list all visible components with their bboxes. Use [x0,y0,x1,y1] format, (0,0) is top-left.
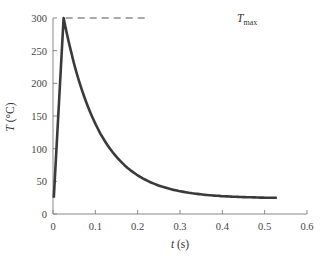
x-tick-label: 0.2 [131,221,144,232]
y-tick-label: 300 [31,13,47,24]
x-tick-label: 0.4 [216,221,230,232]
y-tick-label: 0 [42,209,47,220]
y-tick-label: 250 [31,46,47,57]
x-axis-label: t (s) [171,238,189,251]
ticks: 00.10.20.30.40.50.6050100150200250300 [31,13,313,232]
temperature-curve [54,18,277,198]
y-tick-label: 50 [37,176,48,187]
x-tick-label: 0.1 [89,221,102,232]
y-tick-label: 200 [31,78,47,89]
temperature-chart: 00.10.20.30.40.50.6050100150200250300 T … [0,0,322,257]
y-tick-label: 150 [31,111,47,122]
x-tick-label: 0 [50,221,55,232]
x-tick-label: 0.3 [173,221,186,232]
y-tick-label: 100 [31,144,47,155]
y-axis-label: T (°C) [4,102,17,131]
tmax-label: Tmax [237,12,257,27]
x-tick-label: 0.5 [258,221,271,232]
x-tick-label: 0.6 [300,221,313,232]
